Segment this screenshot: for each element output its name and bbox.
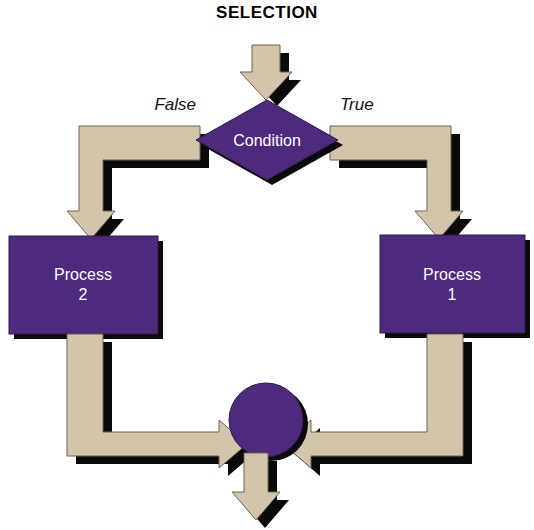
process-2-to-merge xyxy=(67,334,256,476)
condition-label: Condition xyxy=(233,132,301,149)
false-branch-elbow xyxy=(67,126,209,247)
process-1-label-line1: Process xyxy=(423,266,481,283)
process-1-to-merge xyxy=(283,334,472,476)
process-1-box[interactable]: Process 1 xyxy=(380,235,530,338)
diagram-canvas: SELECTION Process 2 Process 1 xyxy=(0,0,534,530)
true-branch-elbow xyxy=(330,126,472,247)
selection-flowchart: SELECTION Process 2 Process 1 xyxy=(0,0,534,530)
true-branch-label: True xyxy=(340,95,374,114)
process-2-label-line1: Process xyxy=(54,266,112,283)
process-2-box[interactable]: Process 2 xyxy=(9,236,163,339)
process-2-label-line2: 2 xyxy=(79,286,88,303)
entry-arrow-down xyxy=(240,45,301,106)
process-1-label-line2: 1 xyxy=(448,286,457,303)
false-branch-label: False xyxy=(154,95,196,114)
condition-diamond[interactable]: Condition xyxy=(196,100,343,185)
page-title: SELECTION xyxy=(216,3,318,22)
